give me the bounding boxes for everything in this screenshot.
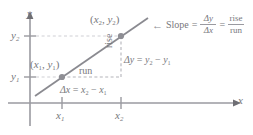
dy-y2-sub: 2 — [149, 59, 152, 66]
delta-fraction-denominator: Δx — [203, 26, 214, 35]
point-1-label: (x1, y1) — [30, 59, 59, 70]
point-2-marker — [118, 33, 124, 39]
p1-x-sub: 1 — [39, 64, 42, 71]
slope-equals-2: = — [219, 19, 225, 30]
p1-x: x — [34, 58, 39, 70]
dx-x2-sub: 2 — [85, 89, 88, 96]
rise-run-denominator: run — [229, 26, 243, 35]
slope-diagram: y x y2 y1 x1 x2 (x2, y2) (x1, y1) run ri… — [0, 0, 253, 135]
dx-x1: x — [99, 84, 103, 95]
dy-eq: = — [137, 54, 143, 65]
x-tick-label-x2: x2 — [115, 110, 123, 121]
y1-subscript: 1 — [16, 76, 19, 83]
slope-formula: ← Slope = Δy Δx = rise run — [152, 14, 244, 36]
x2-subscript: 2 — [120, 115, 123, 122]
y-tick-label-y2: y2 — [11, 30, 19, 41]
run-label: run — [79, 66, 92, 76]
rise-label: rise — [104, 34, 114, 48]
dy-y1-sub: 1 — [168, 59, 171, 66]
y-tick-label-y1: y1 — [11, 71, 19, 82]
dx-eq: = — [73, 84, 79, 95]
point-2-label: (x2, y2) — [90, 14, 119, 25]
x1-subscript: 1 — [61, 115, 64, 122]
dy-lhs: Δy — [124, 54, 134, 65]
x-axis-label: x — [238, 95, 243, 106]
dy-y1: y — [163, 54, 167, 65]
rise-run-fraction: rise run — [228, 14, 244, 36]
dx-lhs: Δx — [60, 84, 70, 95]
p1-close: ) — [56, 58, 60, 70]
slope-equals-1: = — [192, 19, 198, 30]
dy-minus: − — [155, 54, 161, 65]
delta-fraction: Δy Δx — [200, 14, 216, 36]
slope-pointer-arrow-icon: ← — [152, 19, 163, 31]
y2-subscript: 2 — [16, 35, 19, 42]
dx-minus: − — [91, 84, 97, 95]
delta-y-equation: Δy = y2 − y1 — [124, 55, 171, 65]
slope-term: Slope — [166, 19, 189, 30]
point-1-marker — [59, 74, 65, 80]
p2-close: ) — [116, 13, 120, 25]
p2-x-sub: 2 — [99, 19, 102, 26]
rise-run-numerator: rise — [229, 14, 244, 23]
p1-y-sub: 1 — [52, 64, 55, 71]
p2-x: x — [94, 13, 99, 25]
delta-fraction-numerator: Δy — [203, 14, 214, 23]
delta-x-equation: Δx = x2 − x1 — [60, 85, 107, 95]
dx-x1-sub: 1 — [104, 89, 107, 96]
p2-y-sub: 2 — [112, 19, 115, 26]
x-tick-label-x1: x1 — [56, 110, 64, 121]
y-axis-label: y — [27, 8, 32, 19]
